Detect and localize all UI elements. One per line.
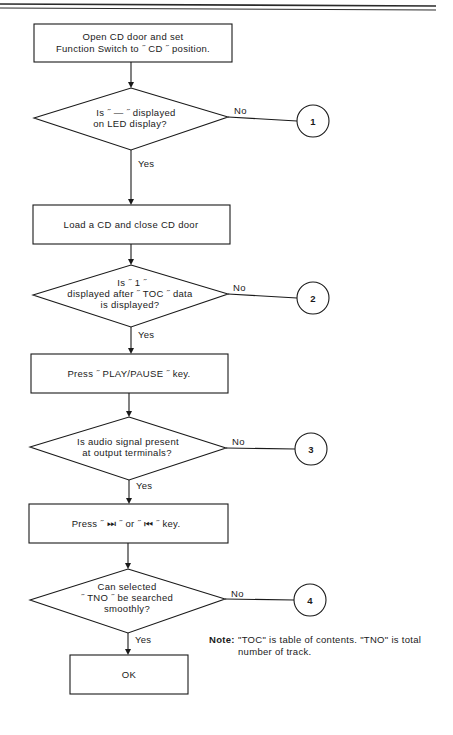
decision-text: at output terminals?	[82, 447, 171, 458]
terminal-ok: OK	[70, 655, 188, 694]
decision-audio-signal: Is audio signal present at output termin…	[30, 417, 226, 480]
decision-text: ˝ TNO ˝ be searched	[81, 592, 173, 603]
no-label: No	[233, 282, 246, 293]
decision-text: Is ˝ 1 ˝	[117, 277, 147, 288]
arrow-down-icon	[125, 649, 131, 655]
note-line-1: "TOC" is table of contents. "TNO" is tot…	[238, 634, 421, 645]
decision-toc-displayed: Is ˝ 1 ˝ displayed after ˝ TOC ˝ data is…	[33, 265, 228, 327]
decision-text: smoothly?	[104, 603, 150, 614]
process-text: Press ˝ PLAY/PAUSE ˝ key.	[67, 368, 190, 379]
connector-1: 1	[297, 105, 329, 137]
footnote: Note: "TOC" is table of contents. "TNO" …	[209, 634, 421, 657]
decision-text: Is ˝ — ˝ displayed	[96, 107, 175, 118]
process-text: Press ˝ ⏭ ˝ or ˝ ⏮ ˝ key.	[72, 518, 181, 529]
no-label: No	[232, 436, 245, 447]
process-text: Open CD door and set	[82, 31, 183, 42]
process-box-press-play-pause: Press ˝ PLAY/PAUSE ˝ key.	[31, 354, 228, 393]
decision-tno-search: Can selected ˝ TNO ˝ be searched smoothl…	[30, 569, 225, 633]
connector-3: 3	[295, 433, 327, 465]
note-label: Note:	[209, 634, 235, 645]
connector-number: 3	[308, 444, 314, 455]
terminal-text: OK	[122, 669, 137, 680]
no-label: No	[234, 105, 247, 116]
decision-text: displayed after ˝ TOC ˝ data	[67, 288, 193, 299]
arrow-down-icon	[126, 498, 132, 504]
arrow-down-icon	[128, 348, 134, 354]
connector-4: 4	[294, 584, 326, 616]
yes-label: Yes	[135, 634, 151, 645]
process-box-load-cd: Load a CD and close CD door	[33, 205, 230, 244]
connector-number: 1	[310, 116, 316, 127]
connector-number: 2	[310, 293, 316, 304]
connector-2: 2	[297, 282, 329, 314]
arrow-down-icon	[128, 199, 134, 205]
process-box-press-skip-keys: Press ˝ ⏭ ˝ or ˝ ⏮ ˝ key.	[29, 504, 228, 543]
connector-number: 4	[307, 595, 313, 606]
decision-text: Can selected	[97, 581, 156, 592]
decision-text: on LED display?	[93, 118, 167, 129]
no-label: No	[231, 588, 244, 599]
process-text: Load a CD and close CD door	[64, 219, 199, 230]
yes-label: Yes	[138, 329, 154, 340]
arrow-down-icon	[125, 563, 131, 569]
decision-led-display: Is ˝ — ˝ displayed on LED display?	[34, 88, 228, 150]
yes-label: Yes	[138, 158, 154, 169]
decision-text: is displayed?	[101, 299, 160, 310]
process-box-open-cd-door: Open CD door and set Function Switch to …	[34, 24, 232, 62]
note-line-2: number of track.	[238, 646, 311, 657]
arrow-down-icon	[128, 82, 134, 88]
arrow-down-icon	[128, 259, 134, 265]
decision-text: Is audio signal present	[77, 436, 179, 447]
process-text: Function Switch to ˝ CD ˝ position.	[56, 43, 210, 54]
header-rule	[0, 4, 436, 10]
arrow-down-icon	[126, 411, 132, 417]
yes-label: Yes	[136, 480, 152, 491]
flowchart: Open CD door and set Function Switch to …	[0, 0, 453, 735]
